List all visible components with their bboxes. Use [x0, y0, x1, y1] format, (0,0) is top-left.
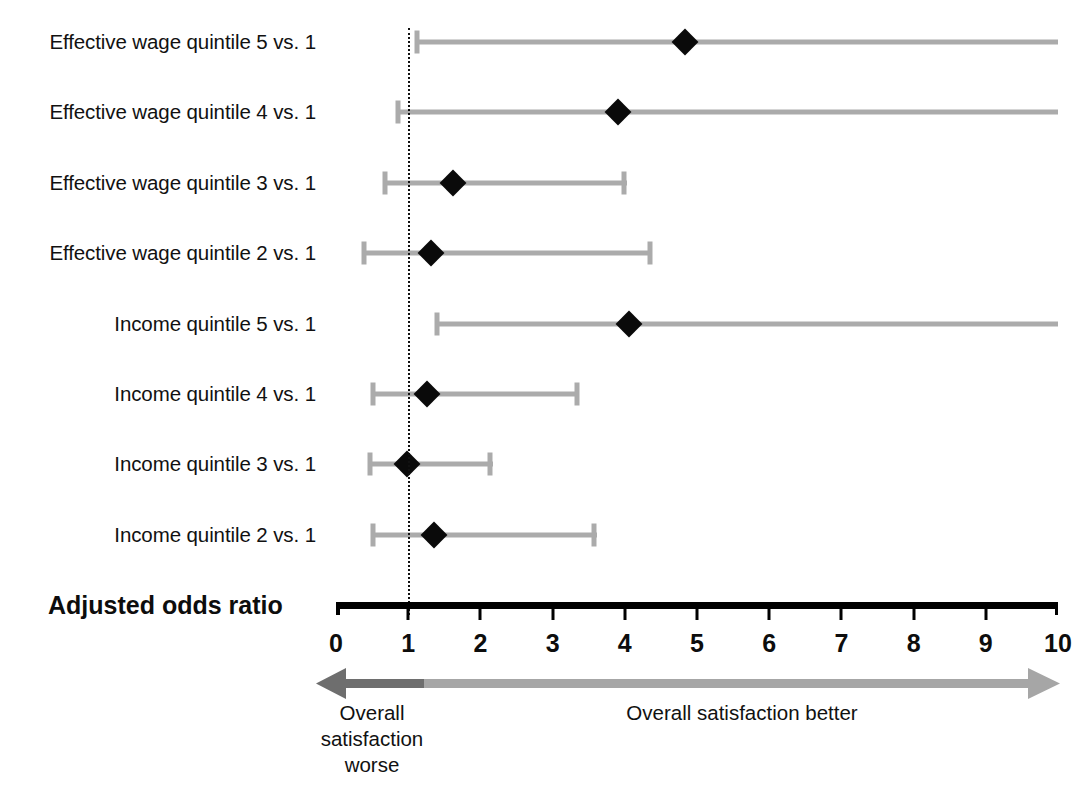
right-direction-arrow-icon	[424, 664, 1060, 704]
confidence-interval-cap-low	[415, 31, 420, 54]
axis-tick	[696, 609, 699, 620]
point-estimate-diamond	[440, 169, 467, 196]
axis-tick-label: 8	[907, 631, 921, 656]
axis-tick	[407, 609, 410, 620]
axis-tick	[479, 609, 482, 620]
confidence-interval-cap-low	[371, 523, 376, 546]
confidence-interval-cap-high	[574, 383, 579, 406]
reference-line	[408, 28, 410, 615]
left-direction-arrow-icon	[316, 664, 426, 704]
left-direction-caption-line: worse	[282, 752, 462, 778]
axis-tick-label: 4	[618, 631, 632, 656]
axis-tick	[623, 609, 626, 620]
forest-plot-figure: Effective wage quintile 5 vs. 1Effective…	[0, 0, 1091, 799]
row-label: Effective wage quintile 3 vs. 1	[49, 173, 316, 194]
left-direction-caption-line: satisfaction	[282, 726, 462, 752]
confidence-interval-bar	[371, 392, 580, 397]
point-estimate-diamond	[414, 381, 441, 408]
point-estimate-diamond	[616, 310, 643, 337]
point-estimate-diamond	[421, 521, 448, 548]
confidence-interval-cap-low	[435, 312, 440, 335]
axis-endcap-right	[1055, 602, 1059, 615]
axis-tick	[840, 609, 843, 620]
axis-tick	[984, 609, 987, 620]
axis-title: Adjusted odds ratio	[48, 593, 283, 618]
confidence-interval-bar	[371, 532, 597, 537]
confidence-interval-cap-low	[362, 242, 367, 265]
confidence-interval-cap-high	[592, 523, 597, 546]
axis-tick-label: 6	[762, 631, 776, 656]
axis-tick-label: 10	[1044, 631, 1072, 656]
axis-tick	[912, 609, 915, 620]
point-estimate-diamond	[418, 240, 445, 267]
row-label: Income quintile 4 vs. 1	[114, 384, 316, 405]
confidence-interval-bar	[435, 321, 1058, 326]
confidence-interval-bar	[396, 110, 1058, 115]
point-estimate-diamond	[605, 99, 632, 126]
left-direction-caption-line: Overall	[282, 700, 462, 726]
row-label: Income quintile 5 vs. 1	[114, 313, 316, 334]
row-label: Effective wage quintile 2 vs. 1	[49, 243, 316, 264]
right-direction-caption: Overall satisfaction better	[626, 700, 857, 726]
confidence-interval-cap-high	[488, 453, 493, 476]
axis-endcap-left	[336, 602, 340, 615]
axis-tick-label: 2	[473, 631, 487, 656]
point-estimate-diamond	[393, 451, 420, 478]
confidence-interval-bar	[415, 40, 1058, 45]
axis-tick	[551, 609, 554, 620]
row-label: Income quintile 3 vs. 1	[114, 454, 316, 475]
confidence-interval-cap-low	[371, 383, 376, 406]
axis-tick-label: 7	[834, 631, 848, 656]
point-estimate-diamond	[671, 29, 698, 56]
left-direction-caption: Overallsatisfactionworse	[282, 700, 462, 779]
axis-tick	[768, 609, 771, 620]
axis-tick-label: 3	[546, 631, 560, 656]
confidence-interval-cap-high	[622, 171, 627, 194]
row-label: Income quintile 2 vs. 1	[114, 525, 316, 546]
confidence-interval-bar	[383, 180, 627, 185]
confidence-interval-bar	[368, 462, 493, 467]
axis-tick-label: 5	[690, 631, 704, 656]
row-label: Effective wage quintile 5 vs. 1	[49, 32, 316, 53]
confidence-interval-cap-low	[368, 453, 373, 476]
axis-tick-label: 1	[401, 631, 415, 656]
confidence-interval-cap-high	[647, 242, 652, 265]
axis-tick-label: 0	[329, 631, 343, 656]
confidence-interval-cap-low	[396, 101, 401, 124]
axis-tick-label: 9	[979, 631, 993, 656]
row-label: Effective wage quintile 4 vs. 1	[49, 102, 316, 123]
confidence-interval-bar	[362, 251, 652, 256]
axis-line	[336, 602, 1058, 609]
confidence-interval-cap-low	[383, 171, 388, 194]
